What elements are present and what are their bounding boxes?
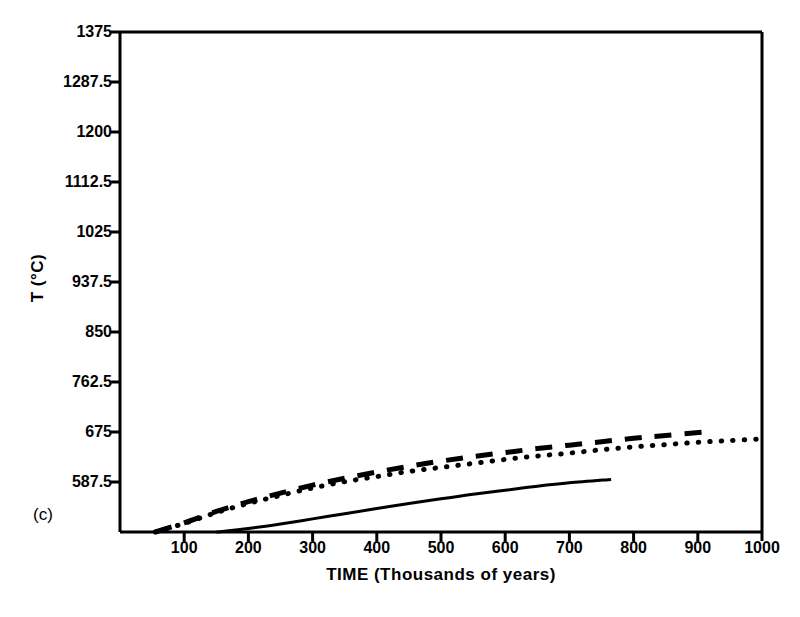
dotted-curve: [155, 439, 762, 532]
tick-marks: [111, 32, 762, 541]
solid-curve: [216, 479, 611, 532]
data-series-group: [155, 432, 762, 532]
plot-canvas: [0, 0, 800, 617]
figure-panel: T (°C) TIME (Thousands of years) (c) 587…: [0, 0, 800, 617]
axes-frame: [120, 32, 762, 532]
dashed-curve: [155, 432, 704, 532]
